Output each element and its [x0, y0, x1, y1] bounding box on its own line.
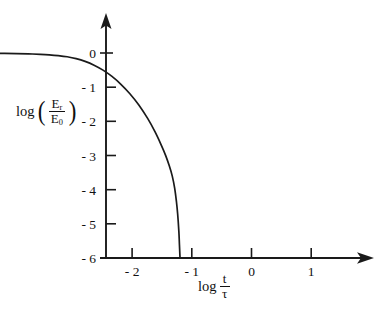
- y-axis-title-numerator: Er: [50, 97, 65, 110]
- y-tick-label: - 6: [81, 251, 96, 266]
- plot-canvas: 0 - 1 - 2 - 3 - 4 - 5 - 6 - 2 - 1 0 1: [0, 0, 390, 314]
- y-axis-tick-marks: [100, 53, 116, 258]
- y-tick-label: 0: [89, 46, 96, 61]
- y-axis-title-fraction: Er E0: [49, 97, 65, 126]
- x-axis-title-numerator: t: [221, 272, 229, 285]
- x-tick-label: - 2: [125, 264, 140, 279]
- x-axis-title: log t τ: [198, 272, 232, 301]
- y-axis-title-denominator-sub: 0: [59, 118, 63, 127]
- y-tick-label: - 3: [81, 149, 96, 164]
- y-axis-title: log ( Er E0 ): [16, 97, 78, 126]
- y-axis-title-open-paren: (: [37, 97, 45, 125]
- x-tick-label: 0: [248, 264, 255, 279]
- y-axis-title-close-paren: ): [69, 97, 77, 125]
- x-axis-title-log: log: [198, 278, 217, 295]
- chart-figure: 0 - 1 - 2 - 3 - 4 - 5 - 6 - 2 - 1 0 1 lo…: [0, 0, 390, 314]
- y-axis-tick-labels: 0 - 1 - 2 - 3 - 4 - 5 - 6: [81, 46, 96, 266]
- x-axis-title-denominator: τ: [220, 287, 229, 300]
- x-axis-title-fraction: t τ: [220, 272, 230, 301]
- y-tick-label: - 1: [81, 80, 96, 95]
- x-tick-label: 1: [308, 264, 315, 279]
- x-axis-tick-marks: [132, 248, 311, 258]
- y-tick-label: - 4: [81, 183, 96, 198]
- y-axis-title-denominator: E0: [49, 112, 65, 125]
- x-tick-label: - 1: [184, 264, 199, 279]
- y-axis-title-log: log: [16, 103, 35, 120]
- y-tick-label: - 2: [81, 114, 96, 129]
- y-tick-label: - 5: [81, 217, 96, 232]
